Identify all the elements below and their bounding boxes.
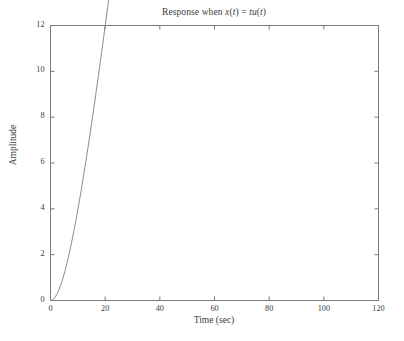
y-tick-label: 8 [11,112,45,120]
y-tick-label: 10 [11,66,45,74]
y-tick-label: 0 [11,296,45,304]
chart-title: Response when x(t) = tu(t) [50,7,378,17]
chart-title-prefix: Response when [162,7,225,17]
y-tick-label: 4 [11,204,45,212]
x-tick-label: 100 [304,305,344,313]
x-tick-label: 80 [249,305,289,313]
x-tick-label: 20 [85,305,125,313]
x-tick-label: 40 [140,305,180,313]
y-tick-label: 12 [11,21,45,29]
response-curve [51,0,352,301]
y-tick-label: 6 [11,158,45,166]
x-tick-label: 120 [359,305,399,313]
chart-title-equals: = [239,7,249,17]
plot-area [0,0,404,341]
x-tick-label: 0 [31,305,71,313]
x-axis-label: Time (sec) [50,315,378,325]
y-tick-label: 2 [11,250,45,258]
x-tick-label: 60 [195,305,235,313]
chart-title-paren-close-2: ) [263,7,266,17]
figure-canvas: Response when x(t) = tu(t) Amplitude Tim… [0,0,404,341]
y-axis-label: Amplitude [8,110,18,180]
